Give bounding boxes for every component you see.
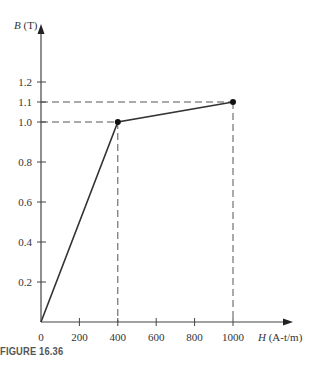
x-tick-label: 800 [186,331,203,343]
y-tick-label: 0.8 [18,156,32,168]
y-tick-label: 1.1 [18,96,32,108]
y-axis-label: B (T) [14,19,38,32]
y-tick-label: 1.2 [18,76,32,88]
data-point-marker [115,119,121,125]
x-tick-label: 200 [71,331,88,343]
y-tick-label: 0.4 [18,236,32,248]
figure-caption: FIGURE 16.36 [0,345,63,357]
y-axis-arrow-icon [38,24,45,34]
bh-curve-line [41,102,233,322]
x-axis-arrow-icon [283,319,293,326]
x-tick-label: 0 [38,331,44,343]
y-tick-label: 0.2 [18,276,32,288]
x-axis-label: H (A-t/m) [257,331,303,344]
data-point-marker [230,99,236,105]
x-tick-label: 400 [110,331,127,343]
x-tick-label: 600 [148,331,165,343]
y-tick-label: 0.6 [18,196,32,208]
y-tick-label: 1.0 [18,116,32,128]
bh-curve-chart: 020040060080010000.20.40.60.81.01.11.2B … [0,0,320,372]
plot-area: 020040060080010000.20.40.60.81.01.11.2B … [14,19,303,344]
x-tick-label: 1000 [222,331,245,343]
